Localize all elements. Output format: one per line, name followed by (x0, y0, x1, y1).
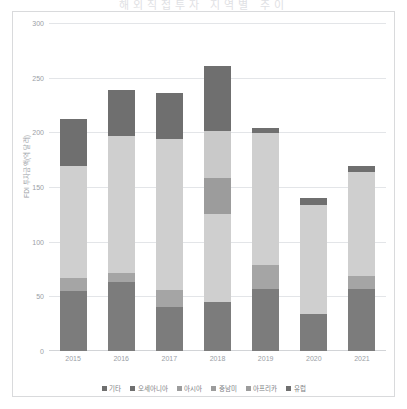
bar-segment-아프리카[interactable] (348, 276, 375, 289)
x-tick-label: 2020 (290, 355, 338, 362)
stacked-bar[interactable] (204, 66, 231, 351)
x-tick-label: 2021 (338, 355, 386, 362)
legend-swatch-icon (211, 386, 216, 391)
bar-segment-아프리카[interactable] (252, 265, 279, 289)
bar-segment-유럽[interactable] (252, 289, 279, 351)
bar-slot[interactable] (338, 23, 386, 351)
y-tick-label: 50 (36, 293, 44, 300)
bar-slot[interactable] (97, 23, 145, 351)
legend-label: 기타 (109, 383, 121, 393)
bar-segment-아프리카[interactable] (156, 290, 183, 307)
bar-segment-기타[interactable] (60, 119, 87, 166)
legend-swatch-icon (102, 386, 107, 391)
bar-segment-아프리카[interactable] (60, 278, 87, 291)
legend-label: 중남미 (219, 383, 237, 393)
y-tick-label: 150 (32, 184, 44, 191)
legend-label: 오세아니아 (138, 383, 168, 393)
bar-segment-유럽[interactable] (204, 302, 231, 351)
x-tick-label: 2017 (145, 355, 193, 362)
bar-segment-기타[interactable] (204, 66, 231, 132)
bar-slot[interactable] (145, 23, 193, 351)
legend-swatch-icon (177, 386, 182, 391)
legend-swatch-icon (246, 386, 251, 391)
legend-swatch-icon (130, 386, 135, 391)
x-tick-label: 2015 (49, 355, 97, 362)
y-tick-label: 0 (40, 348, 44, 355)
stacked-bar[interactable] (108, 90, 135, 351)
bar-segment-유럽[interactable] (300, 314, 327, 351)
chart-legend: 기타오세아니아아시아중남미아프리카유럽 (12, 383, 395, 393)
bar-segment-오세아니아[interactable] (204, 131, 231, 178)
y-tick-label: 200 (32, 129, 44, 136)
bar-slot[interactable] (49, 23, 97, 351)
y-tick-label: 100 (32, 238, 44, 245)
y-axis-title: FDI 투자금액(억 달러) (21, 135, 31, 198)
legend-item[interactable]: 오세아니아 (130, 383, 168, 393)
bar-segment-중남미[interactable] (156, 139, 183, 290)
legend-item[interactable]: 유럽 (286, 383, 306, 393)
bar-segment-중남미[interactable] (108, 136, 135, 274)
stacked-bar[interactable] (60, 119, 87, 351)
legend-item[interactable]: 중남미 (211, 383, 237, 393)
legend-label: 아시아 (184, 383, 202, 393)
legend-swatch-icon (286, 386, 291, 391)
chart-page: 해외직접투자 지역별 추이 FDI 투자금액(억 달러) 05010015020… (0, 0, 407, 409)
legend-label: 아프리카 (253, 383, 277, 393)
bar-segment-중남미[interactable] (60, 166, 87, 278)
stacked-bar[interactable] (348, 166, 375, 351)
bar-group (49, 23, 386, 351)
legend-item[interactable]: 아프리카 (246, 383, 278, 393)
y-tick-label: 250 (32, 74, 44, 81)
bar-slot[interactable] (193, 23, 241, 351)
bar-slot[interactable] (290, 23, 338, 351)
bar-segment-중남미[interactable] (300, 205, 327, 314)
plot-area: 050100150200250300 201520162017201820192… (49, 23, 386, 351)
x-tick-label: 2018 (193, 355, 241, 362)
bar-segment-중남미[interactable] (204, 214, 231, 301)
bar-segment-기타[interactable] (156, 93, 183, 139)
stacked-bar[interactable] (252, 128, 279, 351)
stacked-bar[interactable] (300, 198, 327, 351)
bar-segment-중남미[interactable] (348, 172, 375, 276)
bar-segment-유럽[interactable] (156, 307, 183, 351)
legend-label: 유럽 (294, 383, 306, 393)
bar-segment-기타[interactable] (108, 90, 135, 136)
stacked-bar[interactable] (156, 93, 183, 351)
bar-segment-유럽[interactable] (348, 289, 375, 351)
bar-segment-유럽[interactable] (108, 282, 135, 351)
bar-segment-아프리카[interactable] (108, 273, 135, 282)
bar-segment-중남미[interactable] (252, 133, 279, 264)
y-tick-label: 300 (32, 20, 44, 27)
legend-item[interactable]: 아시아 (177, 383, 203, 393)
bar-segment-아시아[interactable] (204, 178, 231, 214)
bar-slot[interactable] (242, 23, 290, 351)
bar-segment-유럽[interactable] (60, 291, 87, 351)
cut-off-title: 해외직접투자 지역별 추이 (0, 0, 407, 10)
legend-item[interactable]: 기타 (102, 383, 122, 393)
x-tick-label: 2019 (242, 355, 290, 362)
x-tick-label: 2016 (97, 355, 145, 362)
